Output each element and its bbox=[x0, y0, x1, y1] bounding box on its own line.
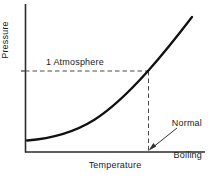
normal-boiling-point-label: Normal Boiling Point bbox=[140, 97, 202, 178]
y-axis-label: Pressure bbox=[0, 0, 11, 80]
vapor-pressure-chart: Pressure Temperature 1 Atmosphere Normal… bbox=[0, 0, 214, 178]
one-atmosphere-label: 1 Atmosphere bbox=[46, 57, 104, 68]
normal-boiling-point-label-line1: Normal bbox=[140, 118, 202, 129]
normal-boiling-point-label-line2: Boiling bbox=[140, 150, 202, 161]
